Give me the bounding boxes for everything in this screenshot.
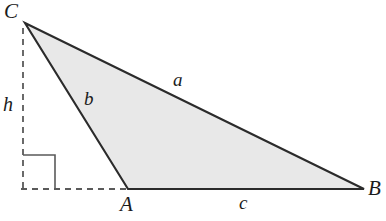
vertex-label-a: A <box>120 194 133 215</box>
vertex-label-c: C <box>4 1 18 22</box>
right-angle-icon <box>23 155 55 189</box>
altitude-label-h: h <box>3 94 13 114</box>
vertex-label-b: B <box>368 178 381 199</box>
side-label-b: b <box>84 89 94 108</box>
side-label-c: c <box>239 193 247 212</box>
side-label-a: a <box>173 70 183 89</box>
triangle-figure: C A B a b c h <box>0 0 386 221</box>
triangle-diagram-canvas <box>0 0 386 221</box>
